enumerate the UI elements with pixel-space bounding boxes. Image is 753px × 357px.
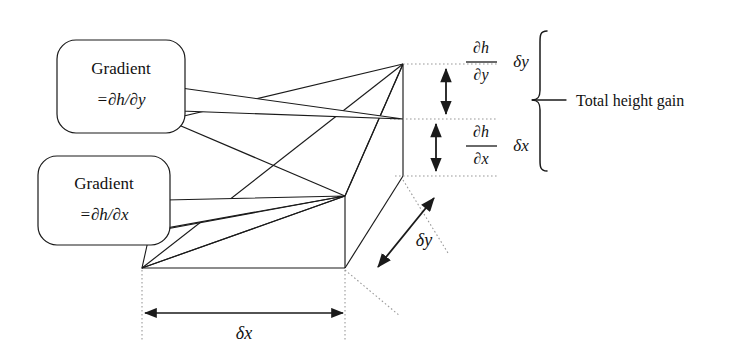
diagram-canvas: ∂h ∂y δy ∂h ∂x δx Total height gain δx δ… (0, 0, 753, 357)
component-label-dh-dy: ∂h ∂y δy (466, 39, 529, 84)
callout-gradient-dy-line1: Gradient (91, 59, 151, 78)
total-height-brace (532, 31, 566, 171)
callout-gradient-dx-line1: Gradient (74, 174, 134, 193)
dh-dy-multiplier: δy (513, 52, 529, 71)
dh-dy-numerator: ∂h (473, 39, 489, 56)
dh-dy-denominator: ∂y (473, 66, 489, 84)
callout-gradient-dx[interactable]: Gradient =∂h/∂x (38, 156, 345, 268)
callout-gradient-dx-box[interactable] (38, 156, 170, 245)
dh-dx-numerator: ∂h (473, 123, 489, 140)
slope-break-to-apex (345, 64, 403, 196)
guide-depth-lower (345, 270, 400, 316)
callout-gradient-dx-line2: =∂h/∂x (79, 205, 128, 224)
gradient-height-diagram: ∂h ∂y δy ∂h ∂x δx Total height gain δx δ… (0, 0, 753, 357)
component-label-dh-dx: ∂h ∂x δx (466, 123, 529, 167)
total-height-gain-label: Total height gain (576, 92, 684, 110)
callout-gradient-dy-line2: =∂h/∂y (96, 90, 145, 109)
right-face-bottom-edge (345, 176, 403, 268)
dh-dx-multiplier: δx (513, 136, 529, 155)
height-component-arrows (436, 69, 446, 171)
callout-gradient-dy-box[interactable] (57, 40, 185, 133)
callout-gradient-dy-tail (181, 88, 403, 119)
brace-path (532, 31, 547, 171)
callout-gradient-dy[interactable]: Gradient =∂h/∂y (57, 40, 403, 133)
delta-y-label: δy (416, 230, 432, 250)
dh-dx-denominator: ∂x (473, 150, 488, 167)
ridge-left-mid-to-front-right (167, 120, 345, 196)
delta-x-label: δx (236, 323, 252, 343)
